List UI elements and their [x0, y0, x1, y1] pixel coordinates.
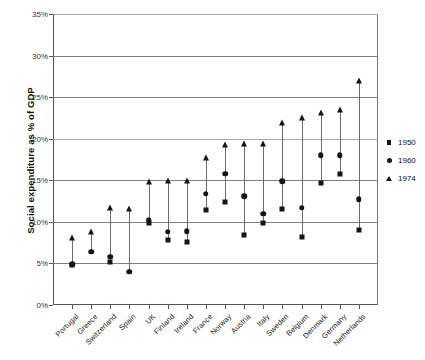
x-axis-tick-mark — [110, 305, 111, 309]
y-axis-tick-label: 5% — [36, 259, 48, 268]
x-axis-tick-mark — [225, 305, 226, 309]
y-axis-tick-label: 35% — [32, 10, 48, 19]
y-axis-tick-mark — [49, 180, 53, 181]
range-connector-line — [359, 81, 360, 230]
x-axis-tick-mark — [187, 305, 188, 309]
legend-label: 1960 — [398, 156, 416, 165]
data-point-triangle — [279, 119, 285, 125]
plot-right-border — [377, 14, 378, 305]
data-point-square — [337, 172, 342, 177]
legend-label: 1950 — [398, 138, 416, 147]
x-axis-tick-mark — [206, 305, 207, 309]
data-point-triangle — [318, 109, 324, 115]
range-connector-line — [302, 118, 303, 237]
data-point-circle — [299, 205, 305, 211]
data-point-circle — [184, 228, 190, 234]
data-point-triangle — [260, 140, 266, 146]
data-point-circle — [203, 191, 209, 197]
data-point-circle — [241, 193, 247, 199]
data-point-triangle — [356, 78, 362, 84]
x-axis-tick-mark — [168, 305, 169, 309]
data-point-triangle — [88, 228, 94, 234]
data-point-circle — [88, 249, 94, 255]
data-point-circle — [108, 254, 114, 260]
data-point-triangle — [299, 114, 305, 120]
y-axis-title: Social expenditure as % of GDP — [25, 61, 36, 261]
x-axis-line — [53, 304, 378, 305]
gridline — [53, 14, 378, 15]
gridline — [53, 222, 378, 223]
y-axis-tick-mark — [49, 97, 53, 98]
legend-label: 1974 — [398, 174, 416, 183]
x-axis-tick-mark — [340, 305, 341, 309]
triangle-marker-icon — [385, 176, 393, 181]
data-point-triangle — [69, 234, 75, 240]
x-axis-tick-label: Spain — [118, 312, 138, 332]
data-point-circle — [280, 178, 286, 184]
data-point-circle — [69, 262, 75, 268]
legend-item-1974: 1974 — [385, 174, 416, 183]
x-axis-tick-mark — [282, 305, 283, 309]
data-point-triangle — [107, 204, 113, 210]
x-axis-tick-mark — [302, 305, 303, 309]
range-connector-line — [340, 110, 341, 174]
data-point-triangle — [222, 141, 228, 147]
data-point-circle — [356, 197, 362, 203]
data-point-circle — [222, 171, 228, 177]
data-point-triangle — [241, 140, 247, 146]
x-axis-tick-label: UK — [143, 312, 157, 326]
x-axis-tick-mark — [263, 305, 264, 309]
data-point-triangle — [126, 205, 132, 211]
gridline — [53, 139, 378, 140]
data-point-triangle — [337, 107, 343, 113]
data-point-triangle — [184, 178, 190, 184]
data-point-square — [165, 238, 170, 243]
x-axis-tick-mark — [244, 305, 245, 309]
social-expenditure-scatter-chart: Social expenditure as % of GDP 0%5%10%15… — [0, 0, 425, 360]
data-point-circle — [146, 217, 152, 223]
gridline — [53, 263, 378, 264]
data-point-triangle — [165, 178, 171, 184]
x-axis-tick-mark — [129, 305, 130, 309]
y-axis-tick-mark — [49, 56, 53, 57]
square-marker-icon — [385, 140, 393, 145]
data-point-square — [318, 180, 323, 185]
x-axis-tick-mark — [321, 305, 322, 309]
y-axis-tick-label: 30% — [32, 51, 48, 60]
legend-item-1950: 1950 — [385, 138, 416, 147]
data-point-circle — [165, 229, 171, 235]
data-point-square — [108, 259, 113, 264]
y-axis-tick-mark — [49, 222, 53, 223]
gridline — [53, 56, 378, 57]
data-point-square — [223, 199, 228, 204]
plot-area: 0%5%10%15%20%25%30%35%PortugalGreeceSwit… — [53, 14, 378, 305]
chart-legend: 1950 1960 1974 — [385, 138, 416, 183]
y-axis-tick-mark — [49, 305, 53, 306]
range-connector-line — [244, 144, 245, 235]
data-point-circle — [127, 269, 133, 275]
data-point-square — [242, 233, 247, 238]
y-axis-tick-label: 0% — [36, 301, 48, 310]
circle-marker-icon — [385, 158, 393, 163]
data-point-square — [280, 206, 285, 211]
x-axis-tick-label: Portugal — [54, 312, 81, 339]
x-axis-tick-mark — [91, 305, 92, 309]
y-axis-tick-label: 10% — [32, 217, 48, 226]
y-axis-tick-label: 25% — [32, 93, 48, 102]
x-axis-tick-label: Austria — [229, 312, 252, 335]
y-axis-tick-label: 15% — [32, 176, 48, 185]
data-point-triangle — [203, 154, 209, 160]
data-point-square — [261, 220, 266, 225]
y-axis-tick-mark — [49, 14, 53, 15]
legend-item-1960: 1960 — [385, 156, 416, 165]
data-point-circle — [261, 211, 267, 217]
range-connector-line — [321, 113, 322, 183]
range-connector-line — [129, 209, 130, 272]
y-axis-tick-mark — [49, 139, 53, 140]
data-point-square — [203, 208, 208, 213]
y-axis-tick-label: 20% — [32, 134, 48, 143]
data-point-circle — [337, 153, 343, 159]
x-axis-tick-mark — [149, 305, 150, 309]
x-axis-tick-mark — [72, 305, 73, 309]
data-point-square — [356, 228, 361, 233]
